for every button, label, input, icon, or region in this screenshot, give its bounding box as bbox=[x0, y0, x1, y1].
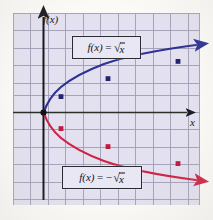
radicand-positive: x bbox=[120, 42, 126, 54]
radical-negative: √ x bbox=[113, 172, 124, 184]
equation-fx-negative: f(x) bbox=[79, 172, 94, 183]
origin-point bbox=[40, 109, 46, 115]
square-root-graph-figure: f(x) x f(x) = √ x f(x) = − √ x bbox=[0, 0, 213, 220]
equation-label-negative: f(x) = − √ x bbox=[62, 166, 142, 189]
radical-positive: √ x bbox=[114, 42, 125, 54]
y-axis-label: f(x) bbox=[43, 13, 58, 25]
equation-label-positive: f(x) = √ x bbox=[72, 36, 141, 59]
equation-equals-positive: = bbox=[104, 42, 112, 53]
radicand-negative: x bbox=[119, 172, 125, 184]
x-axis-label: x bbox=[190, 116, 195, 128]
equation-equals-negative: = bbox=[96, 172, 104, 183]
equation-fx-positive: f(x) bbox=[88, 42, 103, 53]
equation-minus-negative: − bbox=[106, 172, 112, 183]
